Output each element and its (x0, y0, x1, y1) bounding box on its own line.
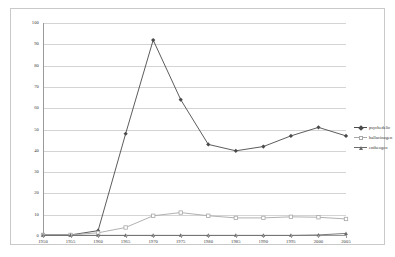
x-axis-tick (181, 235, 182, 238)
data-point-marker (317, 216, 320, 219)
data-point-marker (124, 132, 128, 136)
x-axis-tick (43, 235, 44, 238)
chart-frame: 0102030405060708090100 19501955196019651… (10, 8, 385, 245)
x-axis-tick-label: 1970 (138, 239, 168, 244)
data-point-marker (206, 142, 210, 146)
data-point-marker (151, 38, 155, 42)
data-point-marker (289, 134, 293, 138)
data-point-marker (289, 215, 292, 218)
y-axis-tick-label: 30 (13, 170, 43, 175)
x-axis-tick (71, 235, 72, 238)
x-axis-tick-label: 1955 (56, 239, 86, 244)
x-axis-tick (208, 235, 209, 238)
legend-label: entheogen (369, 145, 388, 150)
data-point-marker (261, 144, 265, 148)
x-axis-tick-label: 1995 (276, 239, 306, 244)
data-point-marker (151, 214, 154, 217)
data-point-marker (344, 134, 348, 138)
legend-swatch-icon (354, 134, 367, 141)
legend-item-psychedelic[interactable]: psychedelic (354, 123, 395, 132)
x-axis-tick (126, 235, 127, 238)
plot-area: 0102030405060708090100 19501955196019651… (43, 23, 346, 236)
data-point-marker (124, 226, 127, 229)
y-axis-tick-label: 10 (13, 212, 43, 217)
y-axis-tick-label: 40 (13, 149, 43, 154)
data-point-marker (234, 216, 237, 219)
x-axis-tick (153, 235, 154, 238)
y-axis-tick-label: 100 (13, 21, 43, 26)
data-point-marker (262, 216, 265, 219)
y-axis-tick-label: 0 (13, 234, 43, 239)
data-point-marker (179, 211, 182, 214)
x-axis-tick (291, 235, 292, 238)
x-axis-tick (98, 235, 99, 238)
x-axis-tick (263, 235, 264, 238)
chart-plot: 0102030405060708090100 19501955196019651… (43, 23, 346, 236)
y-axis-tick-label: 80 (13, 63, 43, 68)
x-axis-tick-label: 1960 (83, 239, 113, 244)
y-axis-tick-label: 20 (13, 191, 43, 196)
legend-label: hallucinogen (369, 135, 392, 140)
x-axis-tick (318, 235, 319, 238)
x-axis-tick-label: 1950 (28, 239, 58, 244)
data-point-marker (316, 125, 320, 129)
y-axis-tick-label: 50 (13, 127, 43, 132)
series-line (43, 40, 346, 235)
data-point-marker (179, 98, 183, 102)
x-axis-tick-label: 1975 (166, 239, 196, 244)
data-point-marker (344, 217, 347, 220)
legend-swatch-icon (354, 144, 367, 151)
legend-item-hallucinogen[interactable]: hallucinogen (354, 133, 395, 142)
x-axis-tick-label: 1985 (221, 239, 251, 244)
legend-item-entheogen[interactable]: entheogen (354, 143, 395, 152)
x-axis-tick (346, 235, 347, 238)
x-axis-tick-label: 2000 (303, 239, 333, 244)
data-point-marker (207, 214, 210, 217)
x-axis-tick-label: 2005 (331, 239, 361, 244)
y-axis-tick-label: 60 (13, 106, 43, 111)
x-axis-tick (236, 235, 237, 238)
series-group (43, 23, 346, 236)
y-axis-tick-label: 90 (13, 42, 43, 47)
data-point-marker (234, 149, 238, 153)
chart-legend: psychedelichallucinogenentheogen (354, 123, 395, 153)
legend-label: psychedelic (369, 125, 390, 130)
x-axis-tick-label: 1980 (193, 239, 223, 244)
y-axis-tick-label: 70 (13, 85, 43, 90)
series-line (43, 213, 346, 235)
series-psychedelic (41, 38, 348, 237)
legend-swatch-icon (354, 124, 367, 131)
x-axis-tick-label: 1965 (111, 239, 141, 244)
x-axis-tick-label: 1990 (248, 239, 278, 244)
